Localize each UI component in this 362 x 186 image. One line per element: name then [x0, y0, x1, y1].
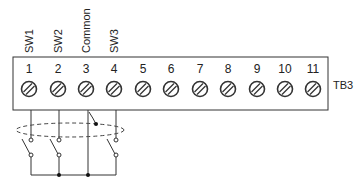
screw-icon — [221, 82, 236, 97]
screw-icon — [79, 82, 94, 97]
switch-sw1 — [22, 138, 33, 175]
terminal-number: 3 — [83, 62, 90, 76]
signal-labels: SW1 SW2 Common SW3 — [23, 8, 120, 53]
terminal-number: 6 — [168, 62, 175, 76]
label-sw1: SW1 — [23, 29, 35, 53]
screw-icon — [193, 82, 208, 97]
terminal-number: 4 — [111, 62, 118, 76]
shield-drain-wire — [89, 112, 96, 124]
label-common: Common — [80, 8, 92, 53]
terminal-number: 8 — [225, 62, 232, 76]
label-sw3: SW3 — [108, 29, 120, 53]
switches — [22, 138, 118, 175]
wiring-diagram: SW1 SW2 Common SW3 TB3 1 2 3 4 5 6 7 8 9… — [0, 0, 362, 186]
terminal-number: 2 — [55, 62, 62, 76]
terminal-number: 11 — [307, 62, 320, 76]
cable-shield — [16, 123, 124, 137]
wires — [31, 110, 116, 175]
screw-icon — [306, 82, 321, 97]
bus-junction-dot — [57, 173, 61, 177]
label-sw2: SW2 — [52, 29, 64, 53]
screw-icon — [250, 82, 265, 97]
switch-sw3 — [107, 138, 118, 175]
screw-icon — [164, 82, 179, 97]
terminal-number: 10 — [278, 62, 292, 76]
terminal-number: 1 — [26, 62, 33, 76]
screw-icon — [107, 82, 122, 97]
screw-icon — [136, 82, 151, 97]
terminal-number: 9 — [254, 62, 261, 76]
screw-icon — [51, 82, 66, 97]
screw-icon — [278, 82, 293, 97]
bus-junction-dot — [86, 173, 90, 177]
shield-junction-dot — [94, 122, 98, 126]
terminal-number: 7 — [197, 62, 204, 76]
switch-sw2 — [50, 138, 61, 175]
screw-icon — [22, 82, 37, 97]
terminal-number: 5 — [140, 62, 147, 76]
terminal-block-label: TB3 — [333, 79, 353, 91]
